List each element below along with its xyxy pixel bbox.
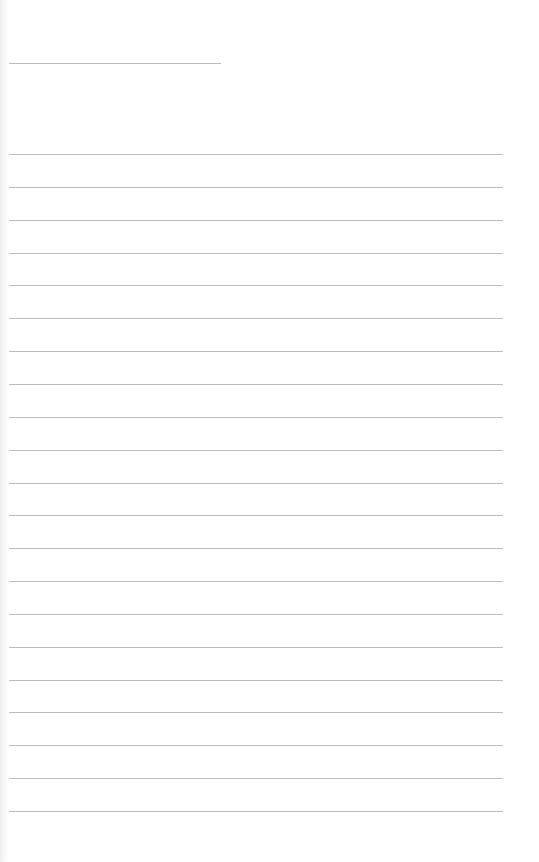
lined-paper-page: [0, 0, 539, 862]
ruled-line: [9, 680, 503, 681]
ruled-line: [9, 515, 503, 516]
ruled-line: [9, 548, 503, 549]
ruled-line: [9, 581, 503, 582]
ruled-line: [9, 220, 503, 221]
ruled-line: [9, 450, 503, 451]
ruled-line: [9, 483, 503, 484]
ruled-line: [9, 187, 503, 188]
ruled-line: [9, 318, 503, 319]
ruled-line: [9, 253, 503, 254]
ruled-line: [9, 745, 503, 746]
ruled-line: [9, 712, 503, 713]
ruled-line: [9, 384, 503, 385]
ruled-line: [9, 154, 503, 155]
title-underline: [9, 63, 221, 64]
ruled-line: [9, 647, 503, 648]
ruled-line: [9, 417, 503, 418]
ruled-line: [9, 614, 503, 615]
ruled-line: [9, 285, 503, 286]
ruled-line: [9, 778, 503, 779]
ruled-line: [9, 351, 503, 352]
ruled-line: [9, 811, 503, 812]
